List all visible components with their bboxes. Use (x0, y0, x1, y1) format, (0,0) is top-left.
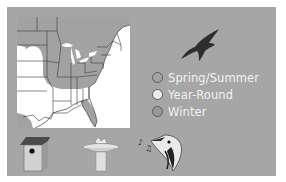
legend-item-winter: Winter (152, 103, 259, 120)
legend-item-year-round: Year-Round (152, 86, 259, 103)
bird-song-icon: ♪ ♫ (135, 129, 187, 175)
music-note-icon: ♫ (145, 144, 152, 153)
birdbath-icon (81, 135, 121, 173)
range-map (17, 17, 130, 128)
legend-label: Spring/Summer (168, 71, 259, 85)
music-note-icon: ♪ (138, 138, 143, 147)
legend-label: Winter (168, 105, 207, 119)
spring-summer-swatch-icon (152, 72, 163, 83)
birdhouse-icon (18, 135, 54, 173)
legend-item-spring-summer: Spring/Summer (152, 69, 259, 86)
legend-label: Year-Round (168, 88, 233, 102)
season-legend: Spring/Summer Year-Round Winter (152, 69, 259, 120)
range-map-card: Spring/Summer Year-Round Winter ♪ ♫ (7, 7, 276, 176)
year-round-swatch-icon (152, 89, 163, 100)
flying-bird-silhouette-icon (179, 27, 225, 63)
winter-swatch-icon (152, 106, 163, 117)
us-map-image (17, 17, 130, 128)
